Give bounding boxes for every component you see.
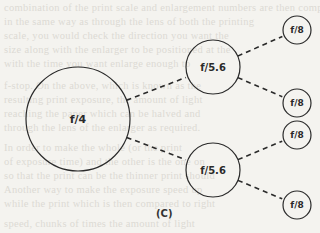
node-leaf-3: f/8 <box>283 121 311 149</box>
edge-root-to-mid-upper <box>127 77 186 100</box>
node-label: f/8 <box>290 98 303 108</box>
node-mid-upper: f/5.6 <box>186 40 240 94</box>
node-leaf-2: f/8 <box>283 89 311 117</box>
node-label: f/5.6 <box>200 62 226 73</box>
edge-mid-lower-to-leaf-3 <box>238 141 282 159</box>
edge-root-to-mid-lower <box>127 137 186 159</box>
node-label: f/5.6 <box>200 165 226 176</box>
edge-mid-upper-to-leaf-2 <box>238 78 282 97</box>
node-label: f/8 <box>290 200 303 210</box>
node-mid-lower: f/5.6 <box>186 143 240 197</box>
node-label: f/8 <box>290 130 303 140</box>
node-root: f/4 <box>26 67 130 171</box>
node-label: f/4 <box>70 113 87 126</box>
node-leaf-4: f/8 <box>283 191 311 219</box>
node-leaf-1: f/8 <box>283 16 311 44</box>
edge-mid-lower-to-leaf-4 <box>238 180 282 198</box>
figure-caption: (C) <box>156 208 172 219</box>
edge-mid-upper-to-leaf-1 <box>238 36 283 56</box>
aperture-tree-diagram: f/4f/5.6f/5.6f/8f/8f/8f/8 <box>0 0 320 233</box>
node-label: f/8 <box>290 25 303 35</box>
